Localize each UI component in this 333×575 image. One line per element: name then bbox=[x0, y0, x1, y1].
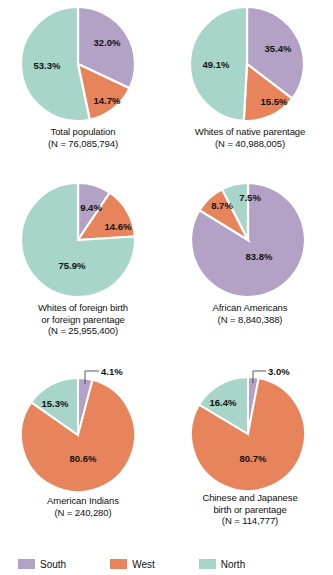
legend-item-south: South bbox=[18, 559, 66, 570]
pie-slices bbox=[21, 378, 135, 492]
caption-line-2: (N = 40,988,005) bbox=[167, 138, 333, 150]
pie-wrap-american-indians: 4.1% 80.6% 15.3% bbox=[0, 365, 166, 493]
chart-chinese-japanese: 3.0% 80.7% 16.4% Chinese and Japanese bi… bbox=[167, 362, 333, 527]
pie-slices bbox=[21, 183, 135, 297]
caption-line-2: (N = 8,840,388) bbox=[167, 314, 333, 326]
legend-swatch-west-icon bbox=[110, 559, 127, 569]
chart-african-americans: 83.8% 8.7% 7.5% African Americans (N = 8… bbox=[167, 178, 333, 325]
pie-chart-figure: 32.0% 14.7% 53.3% Total population (N = … bbox=[0, 0, 333, 575]
caption-chinese-japanese: Chinese and Japanese birth or parentage … bbox=[167, 490, 333, 527]
legend-swatch-south-icon bbox=[18, 559, 35, 569]
slice-value-south: 9.4% bbox=[80, 202, 102, 213]
slice-value-north: 49.1% bbox=[203, 59, 230, 70]
caption-line-1: Chinese and Japanese bbox=[167, 492, 333, 504]
slice-value-south: 35.4% bbox=[265, 43, 292, 54]
legend-swatch-north-icon bbox=[199, 559, 216, 569]
caption-line-1: Whites of native parentage bbox=[167, 126, 333, 138]
legend-label-west: West bbox=[132, 559, 155, 570]
slice-value-north: 16.4% bbox=[210, 397, 237, 408]
slice-value-north: 75.9% bbox=[59, 260, 86, 271]
caption-whites-native-parentage: Whites of native parentage (N = 40,988,0… bbox=[167, 124, 333, 149]
pie-slices bbox=[191, 377, 305, 491]
slice-value-south: 83.8% bbox=[246, 251, 273, 262]
caption-line-1: Total population bbox=[0, 126, 166, 138]
caption-line-1: African Americans bbox=[167, 302, 333, 314]
slice-value-south: 32.0% bbox=[94, 37, 121, 48]
caption-line-2: (N = 76,085,794) bbox=[0, 138, 166, 150]
legend-label-north: North bbox=[221, 559, 245, 570]
pie-wrap-chinese-japanese: 3.0% 80.7% 16.4% bbox=[167, 362, 333, 490]
pie-svg-african-americans: 83.8% 8.7% 7.5% bbox=[167, 178, 333, 300]
pie-svg-american-indians: 4.1% 80.6% 15.3% bbox=[0, 365, 166, 493]
pie-svg-chinese-japanese: 3.0% 80.7% 16.4% bbox=[167, 362, 333, 490]
legend-item-west: West bbox=[110, 559, 155, 570]
slice-value-west: 8.7% bbox=[211, 200, 233, 211]
pie-wrap-whites-native-parentage: 35.4% 15.5% 49.1% bbox=[167, 2, 333, 124]
caption-line-1: American Indians bbox=[0, 495, 166, 507]
caption-whites-foreign-birth: Whites of foreign birth or foreign paren… bbox=[0, 300, 166, 337]
caption-line-1: Whites of foreign birth bbox=[0, 302, 166, 314]
slice-value-west: 14.7% bbox=[94, 95, 121, 106]
pie-wrap-whites-foreign-birth: 9.4% 14.6% 75.9% bbox=[0, 178, 166, 300]
slice-value-west: 14.6% bbox=[105, 221, 132, 232]
slice-value-north: 7.5% bbox=[239, 192, 261, 203]
legend: South West North bbox=[0, 553, 333, 575]
pie-svg-whites-foreign-birth: 9.4% 14.6% 75.9% bbox=[0, 178, 166, 300]
caption-line-2: or foreign parentage bbox=[0, 314, 166, 326]
caption-line-2: birth or parentage bbox=[167, 504, 333, 516]
slice-value-south: 4.1% bbox=[101, 366, 123, 377]
chart-total-population: 32.0% 14.7% 53.3% Total population (N = … bbox=[0, 2, 166, 149]
pie-wrap-african-americans: 83.8% 8.7% 7.5% bbox=[167, 178, 333, 300]
slice-value-north: 15.3% bbox=[42, 398, 69, 409]
chart-whites-foreign-birth: 9.4% 14.6% 75.9% Whites of foreign birth… bbox=[0, 178, 166, 337]
caption-total-population: Total population (N = 76,085,794) bbox=[0, 124, 166, 149]
slice-value-west: 15.5% bbox=[261, 96, 288, 107]
caption-line-3: (N = 114,777) bbox=[167, 515, 333, 527]
chart-whites-native-parentage: 35.4% 15.5% 49.1% Whites of native paren… bbox=[167, 2, 333, 149]
caption-american-indians: American Indians (N = 240,280) bbox=[0, 493, 166, 518]
pie-svg-whites-native-parentage: 35.4% 15.5% 49.1% bbox=[167, 2, 333, 124]
pie-wrap-total-population: 32.0% 14.7% 53.3% bbox=[0, 2, 166, 124]
slice-value-west: 80.7% bbox=[240, 453, 267, 464]
caption-line-3: (N = 25,955,400) bbox=[0, 325, 166, 337]
slice-value-south: 3.0% bbox=[268, 366, 290, 377]
caption-african-americans: African Americans (N = 8,840,388) bbox=[167, 300, 333, 325]
caption-line-2: (N = 240,280) bbox=[0, 507, 166, 519]
slice-value-north: 53.3% bbox=[34, 60, 61, 71]
slice-value-west: 80.6% bbox=[70, 453, 97, 464]
legend-label-south: South bbox=[40, 559, 66, 570]
legend-item-north: North bbox=[199, 559, 245, 570]
pie-svg-total-population: 32.0% 14.7% 53.3% bbox=[0, 2, 166, 124]
chart-american-indians: 4.1% 80.6% 15.3% American Indians (N = 2… bbox=[0, 365, 166, 518]
